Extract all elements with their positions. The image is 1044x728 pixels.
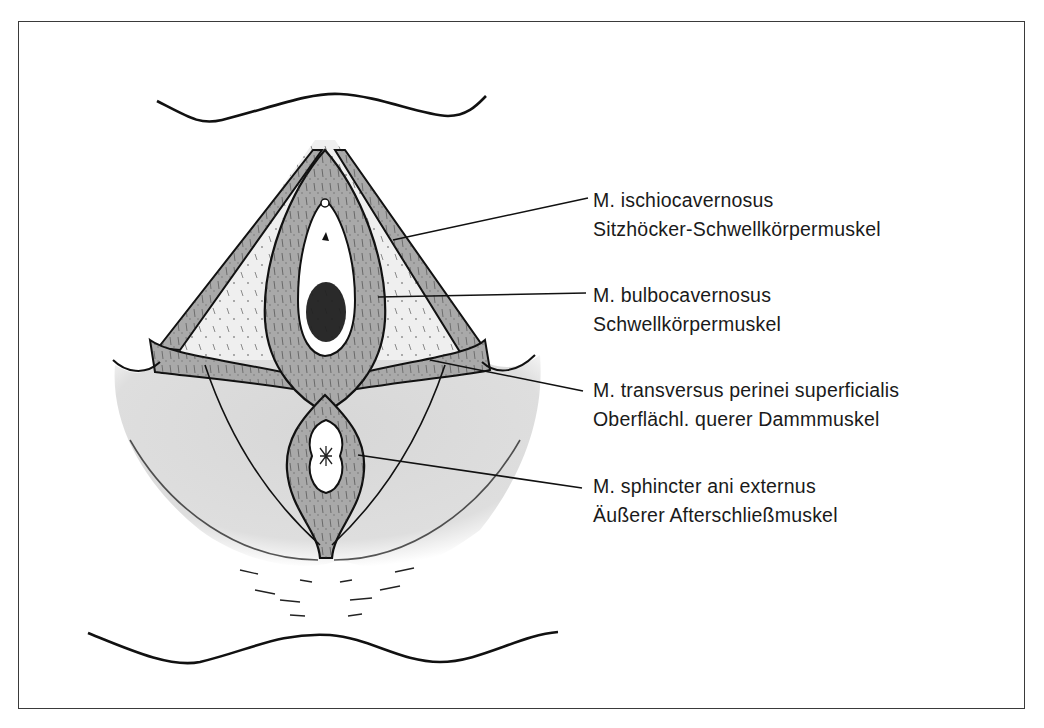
perineum-illustration [0,0,1044,728]
clitoris [321,199,329,207]
label-transversus-perinei: M. transversus perinei superficialis Obe… [593,376,899,434]
label-bulbocavernosus: M. bulbocavernosus Schwellkörpermuskel [593,281,781,339]
upper-thigh-contour [157,94,486,122]
label-sphincter-ani: M. sphincter ani externus Äußerer Afters… [593,472,838,530]
label-latin: M. bulbocavernosus [593,281,781,310]
label-german: Schwellkörpermuskel [593,310,781,339]
label-german: Äußerer Afterschließmuskel [593,501,838,530]
leader-line-ischiocavernosus [393,198,588,240]
label-german: Sitzhöcker-Schwellkörpermuskel [593,215,881,244]
lower-buttock-contour [88,632,558,663]
label-ischiocavernosus: M. ischiocavernosus Sitzhöcker-Schwellkö… [593,186,881,244]
label-german: Oberflächl. querer Dammmuskel [593,405,899,434]
label-latin: M. sphincter ani externus [593,472,838,501]
stippling [240,568,414,616]
label-latin: M. ischiocavernosus [593,186,881,215]
label-latin: M. transversus perinei superficialis [593,376,899,405]
